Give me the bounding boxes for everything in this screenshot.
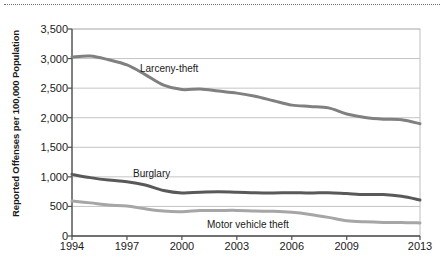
series-label-burglary: Burglary [133, 168, 170, 179]
data-series-group [72, 56, 420, 223]
x-tick-1994: 1994 [60, 240, 84, 252]
plot-canvas [0, 0, 444, 279]
x-tick-2003: 2003 [225, 240, 249, 252]
x-tick-2013: 2013 [408, 240, 432, 252]
series-label-motor-vehicle-theft: Motor vehicle theft [207, 219, 289, 230]
x-tick-2006: 2006 [280, 240, 304, 252]
x-tick-1997: 1997 [115, 240, 139, 252]
series-line-larceny-theft [72, 56, 420, 124]
x-tick-2009: 2009 [334, 240, 358, 252]
series-label-larceny-theft: Larceny-theft [140, 63, 198, 74]
x-tick-2000: 2000 [170, 240, 194, 252]
series-line-burglary [72, 174, 420, 200]
crime-rate-line-chart: Reported Offenses per 100,000 Population… [0, 0, 444, 279]
